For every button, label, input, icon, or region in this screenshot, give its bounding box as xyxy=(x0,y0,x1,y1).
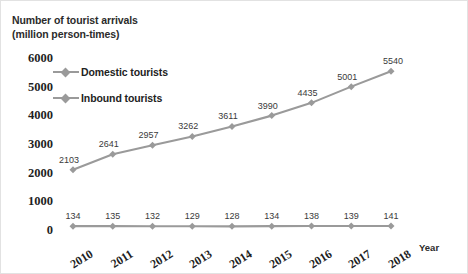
data-point-label: 2957 xyxy=(138,130,158,140)
data-point-label: 2641 xyxy=(99,139,119,149)
data-point-label: 134 xyxy=(65,211,80,221)
data-point-label: 3611 xyxy=(218,111,237,121)
legend-item-1[interactable]: Domestic tourists xyxy=(53,63,168,81)
data-point-marker xyxy=(149,223,156,230)
legend-swatch-icon xyxy=(53,92,79,104)
data-point-label: 138 xyxy=(304,211,319,221)
data-point-label: 4435 xyxy=(297,88,317,98)
data-point-marker xyxy=(70,223,77,230)
data-point-label: 5001 xyxy=(337,72,357,82)
x-axis-title: Year xyxy=(419,242,439,253)
chart-legend: Domestic touristsInbound tourists xyxy=(53,63,168,107)
data-point-marker xyxy=(109,151,116,158)
data-point-label: 141 xyxy=(383,211,398,221)
data-point-marker xyxy=(229,223,236,230)
data-point-marker xyxy=(348,83,355,90)
data-point-marker xyxy=(268,223,275,230)
data-point-marker xyxy=(268,112,275,119)
data-point-label: 132 xyxy=(145,211,160,221)
legend-diamond-icon xyxy=(61,67,71,77)
legend-label: Domestic tourists xyxy=(81,66,168,78)
data-point-label: 2103 xyxy=(59,155,79,165)
data-point-label: 128 xyxy=(224,211,239,221)
data-point-label: 129 xyxy=(185,211,200,221)
legend-label: Inbound tourists xyxy=(81,92,162,104)
data-point-label: 5540 xyxy=(383,56,403,66)
data-point-marker xyxy=(308,99,315,106)
data-point-marker xyxy=(388,222,395,229)
data-point-marker xyxy=(348,223,355,230)
data-point-marker xyxy=(70,166,77,173)
data-point-marker xyxy=(189,133,196,140)
legend-item-2[interactable]: Inbound tourists xyxy=(53,89,168,107)
data-point-label: 3990 xyxy=(258,101,278,111)
chart-figure: Number of tourist arrivals (million pers… xyxy=(0,0,468,274)
data-point-marker xyxy=(229,123,236,130)
data-point-label: 134 xyxy=(264,211,279,221)
data-point-label: 135 xyxy=(105,211,120,221)
data-point-marker xyxy=(388,68,395,75)
legend-diamond-icon xyxy=(61,93,71,103)
data-point-marker xyxy=(308,223,315,230)
data-point-label: 139 xyxy=(344,211,359,221)
data-point-marker xyxy=(109,223,116,230)
plot-area xyxy=(1,1,468,274)
data-point-marker xyxy=(149,142,156,149)
data-point-label: 3262 xyxy=(178,121,198,131)
legend-swatch-icon xyxy=(53,66,79,78)
data-point-marker xyxy=(189,223,196,230)
